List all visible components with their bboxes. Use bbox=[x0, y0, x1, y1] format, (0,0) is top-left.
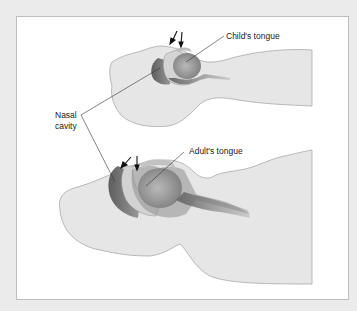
label-nasal-cavity-line2: cavity bbox=[55, 121, 77, 131]
leader-nasal-adult bbox=[81, 115, 115, 182]
child-head bbox=[110, 46, 312, 127]
diagram-page: Child's tongue Adult's tongue Nasal cavi… bbox=[0, 0, 357, 311]
vocal-tract-figure bbox=[0, 0, 357, 311]
child-arrows bbox=[170, 31, 183, 47]
label-nasal-cavity-line1: Nasal bbox=[55, 110, 77, 120]
label-adult-tongue: Adult's tongue bbox=[189, 146, 243, 156]
adult-head bbox=[60, 150, 312, 284]
leader-child-tongue bbox=[186, 36, 224, 62]
label-child-tongue: Child's tongue bbox=[226, 31, 280, 41]
